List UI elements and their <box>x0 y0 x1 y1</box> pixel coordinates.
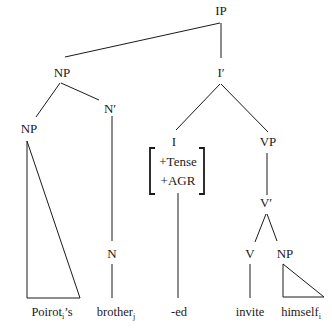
feature-agr: +AGR <box>161 173 196 188</box>
edge-ibar-vp <box>221 84 268 132</box>
node-np-subject: NP <box>54 65 71 80</box>
leaf-verb: invite <box>236 305 265 319</box>
leaf-possessor: Poiroti’s <box>31 305 72 321</box>
syntax-tree: IP NP I′ NP N′ I VP N V′ V NP +Tense +AG… <box>0 0 332 332</box>
triangle-object <box>283 264 324 297</box>
node-i-bar: I′ <box>217 65 224 80</box>
node-np-object: NP <box>277 246 294 261</box>
leaf-tense: -ed <box>171 305 188 319</box>
leaf-object: himselfi <box>281 305 322 321</box>
node-n-head: N <box>107 246 117 261</box>
edge-ibar-i <box>176 84 220 130</box>
node-v-head: V <box>245 246 255 261</box>
feature-tense: +Tense <box>159 154 197 169</box>
feature-bracket-right <box>199 148 204 194</box>
node-np-possessor: NP <box>21 121 38 136</box>
node-ip: IP <box>215 3 227 18</box>
node-i-head: I <box>172 134 176 149</box>
node-vp: VP <box>260 134 277 149</box>
edge-np-np <box>36 83 60 117</box>
edge-ip-np <box>65 23 220 57</box>
triangle-possessor <box>27 141 80 298</box>
edge-vbar-np <box>267 214 277 241</box>
edge-np-nbar <box>61 83 99 100</box>
leaf-noun: brotherj <box>97 305 135 321</box>
node-n-bar: N′ <box>104 101 116 116</box>
edge-vbar-v <box>255 214 266 242</box>
feature-bracket-left <box>150 148 155 194</box>
node-v-bar: V′ <box>260 195 272 210</box>
